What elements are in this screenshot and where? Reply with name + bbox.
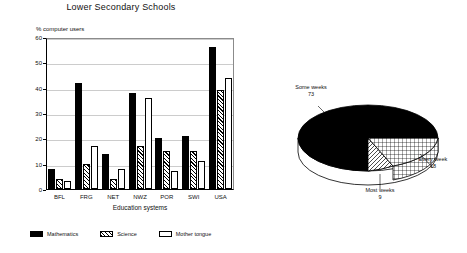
pie-chart: Some weeks 73 Every week 18 Most weeks 9 xyxy=(270,62,467,207)
legend: MathematicsScienceMother tongue xyxy=(30,231,233,237)
bar-group xyxy=(74,39,101,189)
bar-swi-mother-tongue xyxy=(198,161,205,189)
bar-frg-mother-tongue xyxy=(91,146,98,189)
bar-swi-science xyxy=(190,151,197,189)
y-tick-label: 0 xyxy=(26,187,42,193)
bar-plot-area xyxy=(46,38,234,190)
bar-net-science xyxy=(110,179,117,189)
x-tick-label-frg: FRG xyxy=(71,194,101,200)
y-tick-mark xyxy=(43,139,46,140)
bar-group xyxy=(128,39,155,189)
y-tick-label: 10 xyxy=(26,162,42,168)
legend-swatch-white xyxy=(159,231,172,237)
x-tick-label-por: POR xyxy=(152,194,182,200)
x-tick-label-swi: SWI xyxy=(179,194,209,200)
legend-swatch-diagonal-hatch xyxy=(100,231,113,237)
figure-canvas: Lower Secondary Schools % computer users… xyxy=(0,0,467,253)
bar-usa-science xyxy=(217,90,224,189)
bar-group xyxy=(208,39,235,189)
y-tick-mark xyxy=(43,38,46,39)
pie-label-some-weeks: Some weeks 73 xyxy=(276,84,346,98)
y-tick-mark xyxy=(43,89,46,90)
bar-net-mother-tongue xyxy=(118,169,125,189)
bar-bfl-science xyxy=(56,179,63,189)
bar-bfl-mother-tongue xyxy=(64,181,71,189)
bar-frg-mathematics xyxy=(75,83,82,189)
y-tick-mark xyxy=(43,63,46,64)
y-tick-mark xyxy=(43,190,46,191)
pie-label-every-week: Every week 18 xyxy=(401,156,465,170)
x-tick-label-nwz: NWZ xyxy=(125,194,155,200)
y-tick-label: 40 xyxy=(26,86,42,92)
bar-por-mathematics xyxy=(155,138,162,189)
bar-bfl-mathematics xyxy=(48,169,55,189)
y-tick-mark xyxy=(43,114,46,115)
bar-nwz-mother-tongue xyxy=(145,98,152,189)
bar-group xyxy=(154,39,181,189)
bar-nwz-mathematics xyxy=(129,93,136,189)
x-tick-label-net: NET xyxy=(98,194,128,200)
bar-usa-mathematics xyxy=(209,47,216,189)
bar-nwz-science xyxy=(137,146,144,189)
legend-label: Mathematics xyxy=(47,231,78,237)
bar-swi-mathematics xyxy=(182,136,189,189)
bar-frg-science xyxy=(83,164,90,189)
y-tick-label: 50 xyxy=(26,60,42,66)
bar-chart: % computer users 0102030405060 BFLFRGNET… xyxy=(20,26,235,226)
y-tick-label: 60 xyxy=(26,35,42,41)
legend-item-mother-tongue[interactable]: Mother tongue xyxy=(159,231,211,237)
bar-usa-mother-tongue xyxy=(225,78,232,189)
legend-item-science[interactable]: Science xyxy=(100,231,137,237)
y-tick-label: 20 xyxy=(26,136,42,142)
bars-layer xyxy=(47,39,233,189)
bar-group xyxy=(101,39,128,189)
y-axis-title: % computer users xyxy=(36,26,84,32)
y-tick-mark xyxy=(43,165,46,166)
y-tick-label: 30 xyxy=(26,111,42,117)
bar-por-science xyxy=(163,151,170,189)
pie-label-most-weeks: Most weeks 9 xyxy=(348,187,412,201)
legend-label: Mother tongue xyxy=(176,231,211,237)
bar-net-mathematics xyxy=(102,154,109,189)
bar-group xyxy=(47,39,74,189)
legend-label: Science xyxy=(117,231,137,237)
x-axis-title: Education systems xyxy=(46,204,234,211)
page-title: Lower Secondary Schools xyxy=(56,2,186,12)
bar-group xyxy=(181,39,208,189)
x-tick-label-bfl: BFL xyxy=(44,194,74,200)
bar-por-mother-tongue xyxy=(171,171,178,189)
legend-swatch-solid-black xyxy=(30,231,43,237)
legend-item-mathematics[interactable]: Mathematics xyxy=(30,231,78,237)
x-tick-label-usa: USA xyxy=(206,194,236,200)
